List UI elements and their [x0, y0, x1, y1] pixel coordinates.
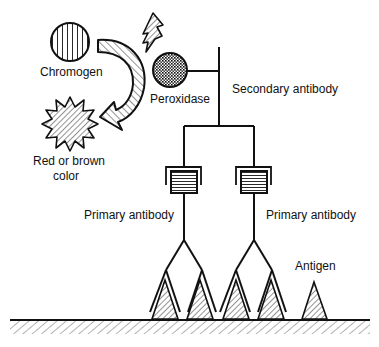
antigen-label: Antigen: [295, 259, 336, 273]
peroxidase-icon: [153, 53, 187, 87]
secondary-antibody: [184, 47, 254, 167]
secondary-antibody-label: Secondary antibody: [232, 82, 338, 96]
red-brown-label-line2: color: [53, 169, 79, 183]
reaction-arrow-icon: [98, 40, 145, 130]
tissue-surface: [10, 320, 370, 334]
chromogen-icon: [51, 23, 89, 61]
lightning-icon: [143, 13, 163, 52]
ihc-diagram: Chromogen Red or brown color Peroxidase …: [0, 0, 379, 347]
primary-antibody-left-label: Primary antibody: [84, 208, 174, 222]
fc-receptor-left: [166, 167, 201, 240]
antigen-free: [302, 282, 327, 319]
fc-receptor-right: [236, 167, 271, 240]
primary-antibody-right-label: Primary antibody: [266, 208, 356, 222]
colored-product-star-icon: [42, 97, 98, 151]
red-brown-label-line1: Red or brown: [33, 154, 105, 168]
peroxidase-label: Peroxidase: [150, 92, 210, 106]
chromogen-label: Chromogen: [40, 65, 103, 79]
